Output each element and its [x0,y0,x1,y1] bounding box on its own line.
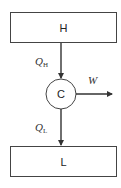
cold-reservoir-box: L [10,146,117,177]
engine-label: C [46,89,76,100]
heat-out-symbol: Q [35,121,43,133]
heat-engine-diagram: H QH C W QL L [0,0,121,188]
cold-reservoir-label: L [60,156,66,168]
heat-out-label: QL [35,122,47,135]
work-label: W [88,75,97,86]
hot-reservoir-label: H [60,22,68,34]
heat-in-label: QH [35,56,48,69]
heat-in-symbol: Q [35,55,43,67]
heat-in-subscript: H [43,61,48,69]
hot-reservoir-box: H [10,12,117,43]
heat-out-subscript: L [43,127,47,135]
